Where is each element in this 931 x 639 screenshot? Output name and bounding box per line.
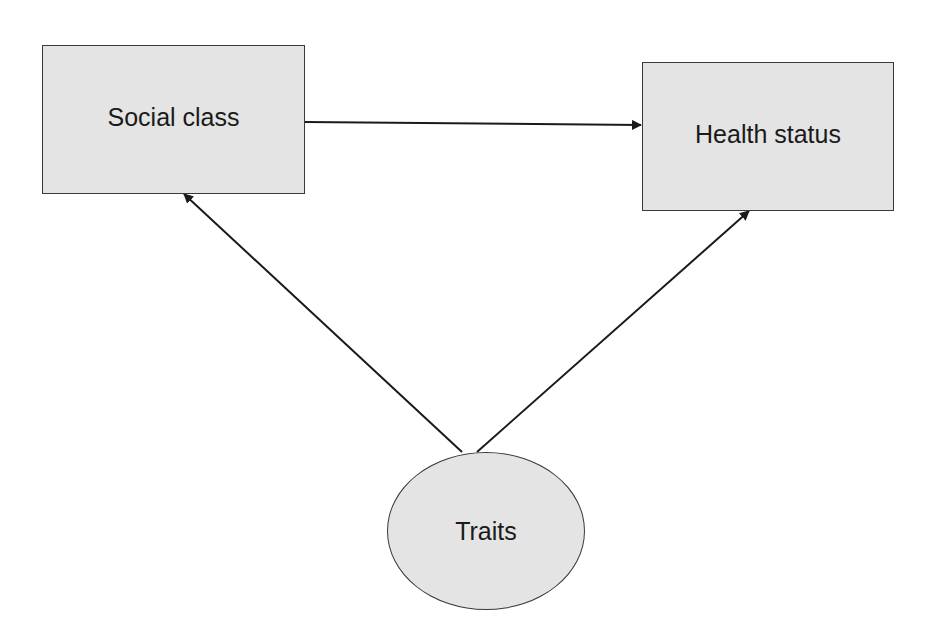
edge-traits-to-social-class — [184, 194, 462, 452]
node-label: Health status — [695, 120, 841, 149]
edge-traits-to-health-status — [477, 211, 749, 452]
node-label: Traits — [455, 517, 517, 546]
edge-social-class-to-health-status — [305, 122, 641, 125]
node-label: Social class — [108, 103, 240, 132]
node-traits: Traits — [387, 452, 585, 610]
node-health-status: Health status — [642, 62, 894, 211]
node-social-class: Social class — [42, 45, 305, 194]
